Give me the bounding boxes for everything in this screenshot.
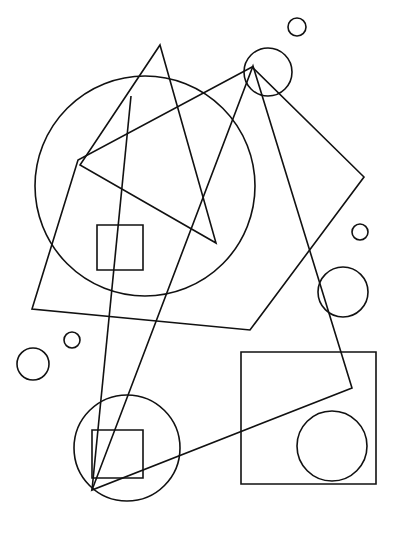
- bottom-right-inner-circle: [297, 411, 367, 481]
- top-small-circle: [288, 18, 306, 36]
- right-medium-circle: [318, 267, 368, 317]
- geometric-line-drawing: [0, 0, 400, 541]
- lower-triangle: [92, 66, 352, 490]
- upper-square: [97, 225, 143, 270]
- long-diagonal-line: [92, 96, 131, 490]
- left-small-circle: [64, 332, 80, 348]
- bottom-right-square: [241, 352, 376, 484]
- right-small-circle: [352, 224, 368, 240]
- left-medium-circle: [17, 348, 49, 380]
- bottom-left-circle: [74, 395, 180, 501]
- large-circle: [35, 76, 255, 296]
- upper-triangle: [80, 45, 216, 243]
- large-quadrilateral: [32, 67, 364, 330]
- drawing-canvas: [0, 0, 400, 541]
